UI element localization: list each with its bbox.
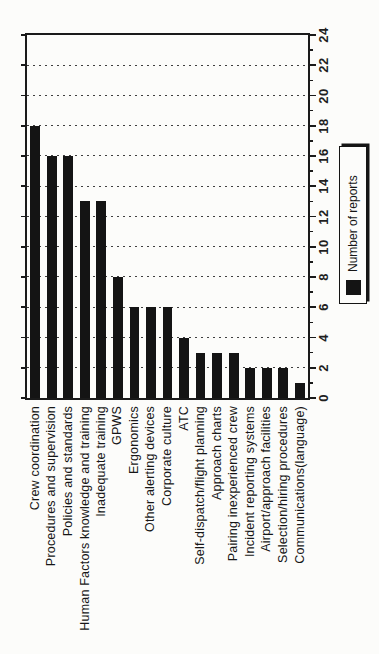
category-label-text: Communications(language) bbox=[293, 406, 306, 564]
category-label-text: Selection/hiring procedures bbox=[277, 406, 290, 563]
gridline bbox=[27, 95, 308, 97]
y-axis-minor-tick bbox=[310, 291, 313, 293]
bar bbox=[146, 307, 156, 398]
bar bbox=[80, 201, 90, 398]
bar bbox=[245, 368, 255, 398]
y-axis-minor-tick bbox=[310, 170, 313, 172]
y-axis-left-tick bbox=[21, 185, 25, 187]
legend-label: Number of reports bbox=[346, 175, 360, 272]
plot-area bbox=[25, 33, 310, 400]
y-axis-minor-tick bbox=[310, 231, 313, 233]
y-axis-left-tick bbox=[21, 64, 25, 66]
gridline bbox=[27, 65, 308, 67]
category-label-text: Human Factors knowledge and training bbox=[78, 406, 91, 631]
bar bbox=[278, 368, 288, 398]
y-axis-tick-label-text: 20 bbox=[316, 88, 331, 103]
y-axis-left-tick bbox=[21, 155, 25, 157]
y-axis-minor-tick bbox=[310, 261, 313, 263]
y-axis-tick-label-text: 10 bbox=[316, 239, 331, 254]
category-label-text: Policies and standards bbox=[62, 406, 75, 536]
category-label-text: Other alerting devices bbox=[144, 406, 157, 532]
category-label-text: Self-dispatch/flight planning bbox=[194, 406, 207, 565]
category-label-text: Pairing inexperienced crew bbox=[227, 406, 240, 561]
category-label-text: GPWS bbox=[111, 406, 124, 445]
bar bbox=[295, 383, 305, 398]
y-axis-tick-label-text: 16 bbox=[316, 148, 331, 163]
y-axis-tick-label-text: 0 bbox=[316, 394, 331, 402]
y-axis-tick-label-text: 2 bbox=[316, 364, 331, 372]
y-axis-tick-label-text: 8 bbox=[316, 273, 331, 281]
y-axis-minor-tick bbox=[310, 201, 313, 203]
bar bbox=[96, 201, 106, 398]
category-label-text: Ergonomics bbox=[128, 406, 141, 474]
legend-swatch-icon bbox=[346, 280, 361, 295]
bar bbox=[163, 307, 173, 398]
y-axis-tick-label-text: 24 bbox=[316, 27, 331, 42]
bar bbox=[229, 353, 239, 398]
category-label-text: Airport/approach facilities bbox=[260, 406, 273, 552]
y-axis-left-tick bbox=[21, 125, 25, 127]
bar bbox=[30, 126, 40, 398]
category-label-text: Approach charts bbox=[211, 406, 224, 500]
y-axis-left-tick bbox=[21, 337, 25, 339]
y-axis-left-tick bbox=[21, 95, 25, 97]
bar bbox=[113, 277, 123, 398]
category-label-text: Incident reporting systems bbox=[244, 406, 257, 557]
y-axis-left-tick bbox=[21, 246, 25, 248]
y-axis-left-tick bbox=[21, 367, 25, 369]
y-axis-tick-label-text: 22 bbox=[316, 58, 331, 73]
y-axis-minor-tick bbox=[310, 110, 313, 112]
category-label-text: Inadequate training bbox=[95, 406, 108, 517]
bar bbox=[196, 353, 206, 398]
gridline bbox=[27, 125, 308, 127]
y-axis-left-tick bbox=[21, 216, 25, 218]
y-axis-tick-label-text: 4 bbox=[316, 334, 331, 342]
y-axis-minor-tick bbox=[310, 49, 313, 51]
bar bbox=[47, 156, 57, 398]
category-label-text: Corporate culture bbox=[161, 406, 174, 506]
y-axis-minor-tick bbox=[310, 322, 313, 324]
bar bbox=[63, 156, 73, 398]
category-label-text: ATC bbox=[178, 406, 191, 431]
category-label-text: Crew coordination bbox=[29, 406, 42, 510]
y-axis-minor-tick bbox=[310, 140, 313, 142]
bar bbox=[212, 353, 222, 398]
legend: Number of reports bbox=[339, 146, 367, 304]
y-axis-tick-label-text: 6 bbox=[316, 303, 331, 311]
y-axis-minor-tick bbox=[310, 352, 313, 354]
bar bbox=[179, 338, 189, 399]
bar bbox=[262, 368, 272, 398]
y-axis-tick-label-text: 18 bbox=[316, 118, 331, 133]
category-label-text: Procedures and supervision bbox=[45, 406, 58, 566]
y-axis-minor-tick bbox=[310, 382, 313, 384]
y-axis-left-tick bbox=[21, 397, 25, 399]
y-axis-left-tick bbox=[21, 34, 25, 36]
y-axis-minor-tick bbox=[310, 80, 313, 82]
bar bbox=[130, 307, 140, 398]
y-axis-tick-label-text: 12 bbox=[316, 209, 331, 224]
figure-bar-chart: 024681012141618202224 Crew coordinationP… bbox=[0, 0, 379, 654]
y-axis-left-tick bbox=[21, 306, 25, 308]
y-axis-tick-label-text: 14 bbox=[316, 179, 331, 194]
y-axis-left-tick bbox=[21, 276, 25, 278]
